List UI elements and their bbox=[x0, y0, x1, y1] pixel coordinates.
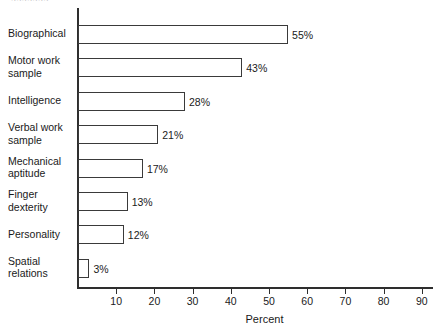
x-tick-40 bbox=[231, 289, 232, 294]
category-label-line: Motor work bbox=[8, 54, 74, 67]
bar-value-label-mechanical-aptitude: 17% bbox=[147, 163, 168, 175]
x-tick-10 bbox=[116, 289, 117, 294]
category-label-personality: Personality bbox=[8, 228, 74, 241]
bar-value-label-personality: 12% bbox=[128, 229, 149, 241]
x-tick-label-80: 80 bbox=[378, 295, 390, 307]
bar-biographical bbox=[78, 25, 288, 44]
x-tick-60 bbox=[307, 289, 308, 294]
x-tick-label-90: 90 bbox=[416, 295, 428, 307]
x-tick-30 bbox=[193, 289, 194, 294]
bar-chart: aaaaaaa 102030405060708090 55%43%28%21%1… bbox=[0, 0, 445, 332]
category-label-motor-work-sample: Motor worksample bbox=[8, 54, 74, 79]
x-tick-20 bbox=[154, 289, 155, 294]
bar-value-label-intelligence: 28% bbox=[189, 96, 210, 108]
bar-value-label-biographical: 55% bbox=[292, 29, 313, 41]
category-label-line: aptitude bbox=[8, 167, 74, 180]
category-label-spatial-relations: Spatialrelations bbox=[8, 255, 74, 280]
category-label-line: sample bbox=[8, 67, 74, 80]
x-tick-label-60: 60 bbox=[301, 295, 313, 307]
y-axis-line bbox=[77, 8, 79, 289]
x-tick-label-40: 40 bbox=[225, 295, 237, 307]
category-label-biographical: Biographical bbox=[8, 27, 74, 40]
x-tick-label-20: 20 bbox=[149, 295, 161, 307]
bar-personality bbox=[78, 225, 124, 244]
category-label-line: Spatial bbox=[8, 255, 74, 268]
category-label-verbal-work-sample: Verbal worksample bbox=[8, 121, 74, 146]
x-axis-title: Percent bbox=[0, 313, 445, 325]
x-tick-50 bbox=[269, 289, 270, 294]
bar-value-label-motor-work-sample: 43% bbox=[246, 62, 267, 74]
category-label-line: dexterity bbox=[8, 201, 74, 214]
bar-mechanical-aptitude bbox=[78, 159, 143, 178]
bar-value-label-finger-dexterity: 13% bbox=[132, 196, 153, 208]
x-tick-label-50: 50 bbox=[263, 295, 275, 307]
category-label-line: Verbal work bbox=[8, 121, 74, 134]
clipped-header-text: aaaaaaa bbox=[11, 0, 49, 1]
bar-spatial-relations bbox=[78, 259, 89, 278]
bar-value-label-spatial-relations: 3% bbox=[93, 263, 108, 275]
x-tick-80 bbox=[384, 289, 385, 294]
category-label-finger-dexterity: Fingerdexterity bbox=[8, 188, 74, 213]
category-label-line: Finger bbox=[8, 188, 74, 201]
category-label-mechanical-aptitude: Mechanicalaptitude bbox=[8, 155, 74, 180]
category-label-line: Personality bbox=[8, 228, 74, 241]
bar-verbal-work-sample bbox=[78, 125, 158, 144]
bar-motor-work-sample bbox=[78, 58, 242, 77]
category-label-line: Intelligence bbox=[8, 94, 74, 107]
bar-intelligence bbox=[78, 92, 185, 111]
x-axis-line bbox=[77, 287, 433, 289]
x-tick-90 bbox=[422, 289, 423, 294]
bar-finger-dexterity bbox=[78, 192, 128, 211]
x-tick-70 bbox=[345, 289, 346, 294]
x-tick-label-10: 10 bbox=[110, 295, 122, 307]
category-label-line: Mechanical bbox=[8, 155, 74, 168]
category-label-line: Biographical bbox=[8, 27, 74, 40]
x-tick-label-30: 30 bbox=[187, 295, 199, 307]
x-tick-label-70: 70 bbox=[340, 295, 352, 307]
x-axis-title-text: Percent bbox=[246, 313, 284, 325]
category-label-line: sample bbox=[8, 134, 74, 147]
category-label-intelligence: Intelligence bbox=[8, 94, 74, 107]
bar-value-label-verbal-work-sample: 21% bbox=[162, 129, 183, 141]
category-label-line: relations bbox=[8, 267, 74, 280]
